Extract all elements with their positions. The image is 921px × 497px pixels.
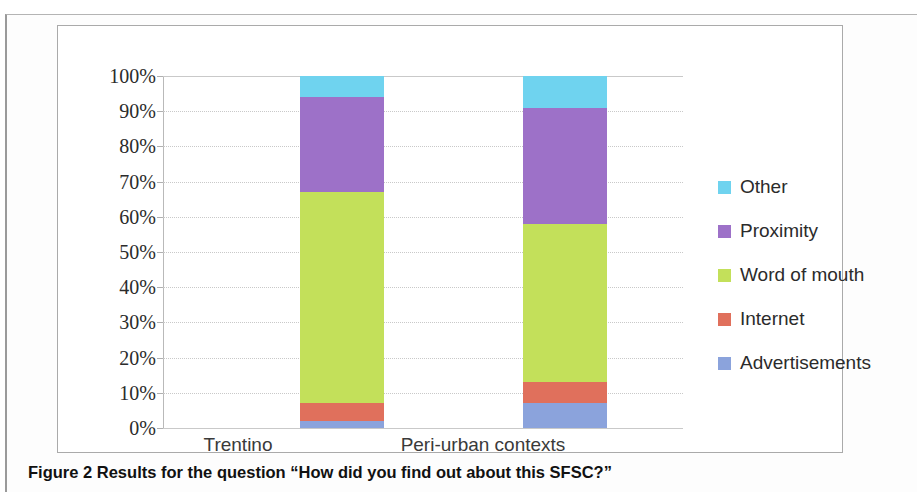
legend-item-other[interactable]: Other bbox=[718, 176, 888, 198]
plot-area bbox=[163, 76, 683, 428]
figure-container: 100%90%80%70%60%50%40%30%20%10%0% Trenti… bbox=[0, 0, 921, 497]
y-axis-tick-label: 40% bbox=[119, 277, 156, 297]
bar-segment-internet[interactable] bbox=[523, 382, 607, 403]
figure-caption-text: Results for the question “How did you fi… bbox=[97, 463, 612, 481]
legend-label: Other bbox=[740, 176, 788, 198]
y-axis-tick bbox=[157, 393, 163, 394]
legend-item-internet[interactable]: Internet bbox=[718, 308, 888, 330]
legend-item-word-of-mouth[interactable]: Word of mouth bbox=[718, 264, 888, 286]
bar-segment-other[interactable] bbox=[300, 76, 384, 97]
y-axis-tick-label: 20% bbox=[119, 348, 156, 368]
y-axis-tick bbox=[157, 322, 163, 323]
legend-swatch-icon bbox=[718, 313, 731, 326]
y-axis-tick-labels: 100%90%80%70%60%50%40%30%20%10%0% bbox=[68, 76, 156, 428]
figure-caption: Figure 2 Results for the question “How d… bbox=[28, 463, 908, 482]
legend-label: Proximity bbox=[740, 220, 818, 242]
gridline bbox=[163, 428, 683, 429]
bar-trentino[interactable] bbox=[300, 76, 384, 428]
y-axis-tick bbox=[157, 287, 163, 288]
bar-segment-proximity[interactable] bbox=[523, 108, 607, 224]
y-axis-tick-label: 70% bbox=[119, 172, 156, 192]
y-axis-tick-label: 100% bbox=[109, 66, 156, 86]
y-axis-tick bbox=[157, 182, 163, 183]
figure-number: Figure 2 bbox=[28, 463, 92, 481]
legend: OtherProximityWord of mouthInternetAdver… bbox=[718, 176, 888, 396]
bar-peri-urban-contexts[interactable] bbox=[523, 76, 607, 428]
y-axis-tick bbox=[157, 217, 163, 218]
legend-swatch-icon bbox=[718, 181, 731, 194]
y-axis-tick-label: 50% bbox=[119, 242, 156, 262]
bar-segment-other[interactable] bbox=[523, 76, 607, 108]
legend-swatch-icon bbox=[718, 357, 731, 370]
legend-label: Internet bbox=[740, 308, 804, 330]
bar-segment-internet[interactable] bbox=[300, 403, 384, 421]
x-axis-label-trentino: Trentino bbox=[163, 434, 313, 456]
y-axis-tick-label: 60% bbox=[119, 207, 156, 227]
legend-swatch-icon bbox=[718, 225, 731, 238]
chart-box: 100%90%80%70%60%50%40%30%20%10%0% Trenti… bbox=[57, 25, 843, 453]
legend-swatch-icon bbox=[718, 269, 731, 282]
bar-segment-proximity[interactable] bbox=[300, 97, 384, 192]
y-axis-tick-label: 30% bbox=[119, 312, 156, 332]
legend-label: Advertisements bbox=[740, 352, 871, 374]
y-axis-tick bbox=[157, 428, 163, 429]
x-axis-label-peri-urban: Peri-urban contexts bbox=[383, 434, 583, 456]
y-axis-tick bbox=[157, 146, 163, 147]
legend-item-proximity[interactable]: Proximity bbox=[718, 220, 888, 242]
bar-segment-word-of-mouth[interactable] bbox=[523, 224, 607, 382]
legend-item-advertisements[interactable]: Advertisements bbox=[718, 352, 888, 374]
bar-segment-advertisements[interactable] bbox=[523, 403, 607, 428]
y-axis-tick-label: 10% bbox=[119, 383, 156, 403]
legend-label: Word of mouth bbox=[740, 264, 864, 286]
y-axis-tick-label: 0% bbox=[129, 418, 156, 438]
bar-segment-word-of-mouth[interactable] bbox=[300, 192, 384, 403]
y-axis-tick bbox=[157, 111, 163, 112]
y-axis-tick-label: 90% bbox=[119, 101, 156, 121]
y-axis-tick-label: 80% bbox=[119, 136, 156, 156]
y-axis-tick bbox=[157, 76, 163, 77]
y-axis-tick bbox=[157, 358, 163, 359]
y-axis-tick bbox=[157, 252, 163, 253]
bar-segment-advertisements[interactable] bbox=[300, 421, 384, 428]
